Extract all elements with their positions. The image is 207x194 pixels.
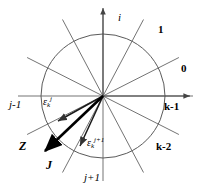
sector-label-0: 0 [181, 63, 187, 74]
sector-label-k-1: k-1 [164, 101, 179, 112]
epsilon-superscript: j+1 [94, 136, 104, 144]
sector-label-j-1: j-1 [9, 99, 21, 110]
epsilon-k-j-plus-1-label: εkj+1 [87, 137, 104, 150]
sector-label-k-2: k-2 [156, 141, 171, 152]
vector-label-J: J [46, 159, 52, 171]
sector-label-j-plus-1: j+1 [84, 172, 100, 183]
figure-canvas: i 1 0 k-1 k-2 j-1 j+1 εkj εkj+1 Z J [0, 0, 207, 194]
epsilon-superscript: j [50, 95, 52, 103]
imaginary-axis-label: i [118, 12, 121, 23]
sector-label-1: 1 [158, 24, 164, 35]
vector-label-Z: Z [19, 140, 26, 152]
epsilon-k-j-label: εkj [43, 96, 52, 109]
unit-circle-sector-diagram [0, 0, 207, 194]
